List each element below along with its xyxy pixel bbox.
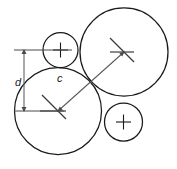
tangent-circles-diagram: d c — [0, 0, 177, 169]
extension-lines-group — [14, 50, 72, 111]
dimension-label-c: c — [57, 72, 63, 84]
figure-canvas: d c — [0, 0, 177, 169]
dimension-d-group: d — [15, 50, 24, 111]
dimension-line-c — [58, 52, 124, 111]
center-mark-top-right — [110, 38, 134, 62]
plus-icon-bottom-right — [116, 115, 131, 130]
dimension-label-d: d — [15, 76, 22, 88]
dimension-c-group: c — [57, 52, 124, 111]
